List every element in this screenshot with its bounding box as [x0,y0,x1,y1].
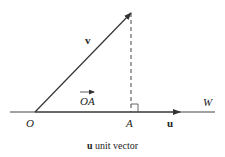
caption: u unit vector [0,141,225,151]
label-v: v [85,35,91,46]
right-angle-marker [131,104,138,112]
projection-diagram [0,0,225,157]
label-u: u [167,118,173,129]
caption-text: unit vector [93,140,139,151]
label-a: A [126,118,133,129]
label-w: W [203,97,212,108]
label-o: O [26,118,34,129]
label-oa: OA [80,96,95,107]
